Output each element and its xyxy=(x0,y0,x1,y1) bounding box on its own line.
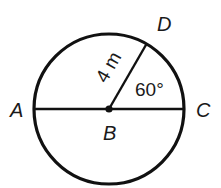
diagram-canvas: A B C D 4 m 60° xyxy=(0,0,221,188)
point-label-d: D xyxy=(157,13,171,35)
circle-diagram: A B C D 4 m 60° xyxy=(0,0,221,188)
angle-label: 60° xyxy=(135,79,164,100)
point-label-a: A xyxy=(9,99,23,121)
center-point xyxy=(105,105,112,112)
radius-length-label: 4 m xyxy=(91,48,125,86)
point-label-b: B xyxy=(103,122,116,144)
point-label-c: C xyxy=(196,99,211,121)
